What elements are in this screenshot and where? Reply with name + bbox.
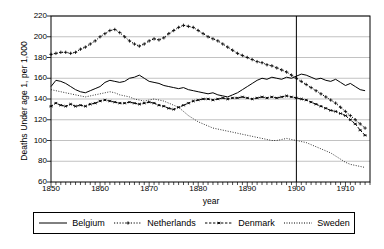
legend-label: Sweden	[317, 218, 350, 228]
data-point-marker	[314, 103, 317, 105]
data-point-marker	[157, 104, 160, 106]
data-point-marker	[128, 101, 131, 103]
data-point-marker	[349, 114, 352, 117]
data-point-marker	[280, 96, 283, 98]
data-point-marker	[64, 105, 67, 107]
series-line-sweden	[51, 90, 365, 168]
legend-item-denmark[interactable]: Denmark	[204, 218, 275, 228]
x-tick-label: 1870	[129, 185, 169, 193]
fine-dotted-swatch	[283, 218, 313, 228]
data-point-marker	[182, 24, 185, 27]
data-point-marker	[251, 58, 254, 61]
data-point-marker	[349, 119, 352, 121]
x-tick-label: 1890	[227, 185, 267, 193]
data-point-marker	[84, 105, 87, 107]
x-tick-label: 1850	[31, 185, 71, 193]
data-point-marker	[246, 56, 249, 59]
data-point-marker	[329, 109, 332, 111]
data-point-marker	[344, 114, 347, 116]
data-point-marker	[113, 28, 116, 31]
data-point-marker	[363, 126, 366, 129]
data-point-marker	[64, 51, 67, 54]
legend-item-belgium[interactable]: Belgium	[38, 218, 105, 228]
y-tick-label: 180	[23, 54, 47, 62]
data-point-marker	[226, 98, 229, 100]
data-point-marker	[363, 134, 366, 136]
series-line-denmark	[51, 96, 365, 135]
data-point-marker	[324, 107, 327, 109]
data-point-marker	[270, 96, 273, 98]
data-point-marker	[138, 44, 141, 47]
y-tick-label: 160	[23, 74, 47, 82]
data-point-marker	[309, 101, 312, 103]
data-point-marker	[172, 108, 175, 110]
legend-item-netherlands[interactable]: Netherlands	[113, 218, 196, 228]
data-point-marker	[59, 51, 62, 54]
data-point-marker	[108, 29, 111, 32]
data-point-marker	[133, 42, 136, 45]
data-point-marker	[290, 96, 293, 98]
data-point-marker	[260, 61, 263, 64]
data-point-marker	[270, 64, 273, 67]
series-line-belgium	[51, 74, 365, 97]
data-point-marker	[339, 112, 342, 114]
legend-label: Denmark	[238, 218, 275, 228]
data-point-marker	[84, 45, 87, 48]
data-point-marker	[98, 100, 101, 102]
data-point-marker	[167, 107, 170, 109]
x-axis-tick-labels: 1850186018701880189019001910	[0, 185, 384, 199]
data-point-marker	[108, 100, 111, 102]
data-point-marker	[93, 102, 96, 104]
dotted-plus-swatch	[113, 218, 143, 228]
data-point-marker	[319, 92, 322, 95]
data-point-marker	[133, 102, 136, 104]
y-tick-label: 120	[23, 116, 47, 124]
data-point-marker	[241, 96, 244, 98]
data-point-marker	[211, 37, 214, 40]
data-point-marker	[334, 101, 337, 104]
data-point-marker	[265, 63, 268, 66]
data-point-marker	[54, 52, 57, 55]
data-point-marker	[251, 98, 254, 100]
y-tick-label: 200	[23, 33, 47, 41]
data-point-marker	[118, 31, 121, 34]
data-point-marker	[201, 98, 204, 100]
data-point-marker	[260, 96, 263, 98]
data-point-marker	[49, 53, 52, 56]
data-point-marker	[152, 37, 155, 40]
legend-label: Netherlands	[147, 218, 196, 228]
data-point-marker	[192, 100, 195, 102]
data-point-marker	[74, 105, 77, 107]
legend-label: Belgium	[72, 218, 105, 228]
data-point-marker	[275, 66, 278, 69]
y-tick-label: 80	[23, 157, 47, 165]
data-point-marker	[89, 103, 92, 105]
data-point-marker	[143, 102, 146, 104]
data-point-marker	[187, 102, 190, 104]
data-point-marker	[74, 51, 77, 54]
data-point-marker	[300, 98, 303, 100]
series-line-netherlands	[51, 25, 365, 128]
x-tick-label: 1900	[276, 185, 316, 193]
data-point-marker	[182, 104, 185, 106]
data-point-marker	[123, 102, 126, 104]
data-point-marker	[147, 101, 150, 103]
data-point-marker	[354, 123, 357, 125]
data-point-marker	[218, 222, 221, 224]
data-point-marker	[187, 25, 190, 28]
data-point-marker	[98, 35, 101, 38]
data-point-marker	[152, 102, 155, 104]
y-tick-label: 220	[23, 12, 47, 20]
x-tick-label: 1910	[325, 185, 365, 193]
y-tick-label: 100	[23, 137, 47, 145]
series-markers-netherlands	[49, 24, 366, 130]
y-tick-label: 140	[23, 95, 47, 103]
legend-item-sweden[interactable]: Sweden	[283, 218, 350, 228]
data-point-marker	[162, 105, 165, 107]
data-point-marker	[138, 103, 141, 105]
data-point-marker	[93, 39, 96, 42]
data-point-marker	[319, 105, 322, 107]
data-point-marker	[69, 103, 72, 105]
data-point-marker	[69, 52, 72, 55]
data-point-marker	[118, 102, 121, 104]
